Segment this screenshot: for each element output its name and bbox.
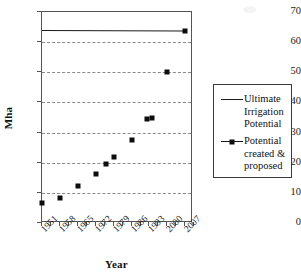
legend-entry-ultimate: Ultimate Irrigation Potential — [220, 93, 284, 131]
legend-label-line-1: Potential — [244, 135, 285, 148]
data-point-marker — [111, 155, 116, 160]
legend-label-created: Potential created & proposed — [244, 135, 285, 173]
legend-label-line-2: Irrigation — [244, 106, 284, 119]
data-point-marker — [103, 162, 108, 167]
legend-line-swatch-icon — [220, 93, 244, 106]
legend-entry-created: Potential created & proposed — [220, 135, 285, 173]
legend-label-line-1: Ultimate — [244, 93, 284, 106]
legend-marker-swatch-icon — [220, 135, 244, 148]
data-point-marker — [57, 196, 62, 201]
gridline — [42, 42, 191, 43]
data-point-marker — [129, 137, 134, 142]
y-tick-label: 10 — [279, 187, 301, 197]
data-point-marker — [75, 183, 80, 188]
chart-legend: Ultimate Irrigation Potential Potential … — [213, 84, 292, 178]
legend-label-ultimate: Ultimate Irrigation Potential — [244, 93, 284, 131]
gridline — [42, 133, 191, 134]
legend-label-line-3: Potential — [244, 118, 284, 131]
data-point-marker — [150, 115, 155, 120]
gridline — [42, 102, 191, 103]
scan-artifact — [243, 6, 256, 13]
y-tick-label: 70 — [279, 6, 301, 16]
plot-area — [41, 11, 192, 222]
x-axis-label: Year — [40, 258, 193, 270]
chart-figure: Mha Year 010203040506070 195119581965197… — [0, 0, 301, 277]
y-axis-label: Mha — [2, 98, 14, 138]
y-tick-label: 60 — [279, 36, 301, 46]
gridline — [42, 193, 191, 194]
ultimate-potential-line — [42, 30, 185, 32]
legend-label-line-3: proposed — [244, 160, 285, 173]
data-point-marker — [40, 201, 45, 206]
y-tick-label: 0 — [279, 217, 301, 227]
y-tick-label: 50 — [279, 66, 301, 76]
data-point-marker — [93, 172, 98, 177]
legend-label-line-2: created & — [244, 148, 285, 161]
data-point-marker — [183, 28, 188, 33]
data-point-marker — [165, 70, 170, 75]
gridline — [42, 163, 191, 164]
